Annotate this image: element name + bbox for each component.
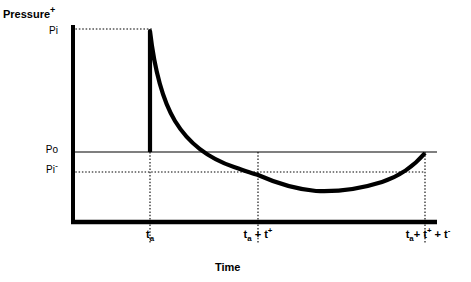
x-tick-t-plus-sup-2: +	[427, 226, 432, 235]
x-tick-ta-sub: a	[150, 234, 154, 243]
y-axis-title-text: Pressure	[3, 8, 50, 20]
x-tick-plus-op-1: +	[255, 228, 261, 240]
y-axis-title: Pressure+	[3, 8, 55, 20]
y-tick-pi-negative-text: Pi	[46, 164, 55, 175]
x-tick-label-ta-plus-tp-plus-tn: ta+ t+ + t-	[386, 228, 470, 240]
x-tick-t-minus-sup: -	[448, 226, 451, 235]
blast-wave-pressure-time-chart: Pressure+ Pi Po Pi- ta ta + t+ ta+ t+ + …	[0, 0, 471, 282]
y-tick-label-pi-peak: Pi	[14, 25, 58, 36]
y-tick-label-po: Po	[14, 144, 58, 155]
x-axis-title: Time	[215, 261, 240, 273]
x-tick-ta-sub-2: a	[247, 234, 251, 243]
y-tick-pi-negative-sign: -	[55, 161, 58, 171]
x-tick-label-ta-plus-tp: ta + t+	[222, 228, 294, 240]
y-tick-pi-peak-text: Pi	[49, 25, 58, 36]
y-tick-label-pi-negative: Pi-	[14, 164, 58, 175]
x-tick-plus-op-3: +	[435, 228, 441, 240]
x-tick-label-ta: ta	[128, 228, 172, 240]
y-axis-sign: +	[50, 5, 55, 15]
x-tick-t-plus-sup-1: +	[268, 226, 273, 235]
blast-wave-curve	[150, 31, 425, 191]
x-tick-plus-op-2: +	[414, 228, 420, 240]
y-tick-po-text: Po	[46, 144, 58, 155]
